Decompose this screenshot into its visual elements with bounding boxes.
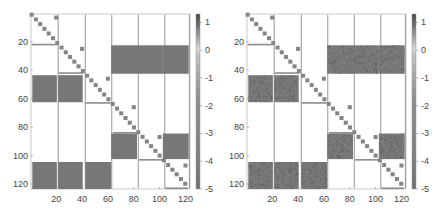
noise-pixel [328,55,330,57]
noise-pixel [252,173,254,175]
noise-pixel [303,178,305,180]
noise-pixel [393,67,395,69]
noise-pixel [268,187,270,189]
noise-pixel [391,145,393,147]
noise-pixel [403,141,405,143]
noise-pixel [282,173,284,175]
block [111,45,137,73]
noise-pixel [312,180,314,182]
noise-pixel [346,57,348,59]
noise-pixel [259,166,261,168]
colorbar-tick-label: 1 [205,17,210,27]
noise-pixel [338,148,340,150]
noise-pixel [344,65,346,67]
noise-pixel [346,148,348,150]
noise-pixel [343,57,345,59]
noise-pixel [348,50,350,52]
noise-pixel [281,92,283,94]
noise-pixel [266,89,268,91]
noise-pixel [344,56,346,58]
noise-pixel [354,52,356,54]
noise-pixel [287,88,289,90]
y-tick-label: 40 [234,65,244,75]
noise-pixel [324,182,326,184]
noise-pixel [277,176,279,178]
noise-pixel [364,67,366,69]
noise-pixel [328,66,330,68]
noise-pixel [326,182,328,184]
noise-pixel [358,62,360,64]
noise-pixel [255,76,257,78]
noise-pixel [255,184,257,186]
diagonal-cell [352,130,356,134]
noise-pixel [257,180,259,182]
noise-pixel [267,82,269,84]
noise-pixel [329,146,331,148]
noise-pixel [319,173,321,175]
noise-pixel [400,57,402,59]
noise-pixel [302,177,304,179]
noise-pixel [336,135,338,137]
noise-pixel [302,166,304,168]
noise-pixel [258,169,260,171]
colorbar: 10-1-2-3-4-5 [412,14,429,194]
noise-pixel [384,48,386,50]
noise-pixel [368,45,370,47]
noise-pixel [393,59,395,61]
noise-pixel [361,62,363,64]
noise-pixel [385,54,387,56]
noise-pixel [399,63,401,65]
noise-pixel [309,166,311,168]
noise-pixel [296,90,298,92]
noise-pixel [341,149,343,151]
noise-pixel [294,177,296,179]
noise-pixel [292,75,294,77]
noise-pixel [320,186,322,188]
noise-pixel [328,154,330,156]
noise-pixel [266,170,268,172]
noise-pixel [251,186,253,188]
noise-pixel [331,56,333,58]
diagonal-cell [263,31,267,35]
plot-area: 2040608010012020406080100120 [13,13,193,204]
noise-pixel [391,46,393,48]
noise-pixel [391,61,393,63]
noise-pixel [366,62,368,64]
noise-pixel [334,140,336,142]
noise-pixel [351,142,353,144]
noise-pixel [344,135,346,137]
noise-pixel [390,136,392,138]
noise-pixel [392,151,394,153]
noise-pixel [372,50,374,52]
noise-pixel [348,134,350,136]
diagonal-cell [106,97,110,101]
x-tick-label: 100 [152,194,167,204]
noise-pixel [369,65,371,67]
noise-pixel [337,134,339,136]
x-tick-label: 80 [129,194,139,204]
noise-pixel [289,178,291,180]
diagonal-cell [68,55,72,59]
noise-pixel [259,182,261,184]
noise-pixel [341,152,343,154]
noise-pixel [329,62,331,64]
noise-pixel [259,79,261,81]
noise-pixel [282,84,284,86]
noise-pixel [334,149,336,151]
noise-pixel [374,67,376,69]
noise-pixel [397,51,399,53]
noise-pixel [395,51,397,53]
noise-pixel [252,175,254,177]
block [32,162,57,189]
noise-pixel [260,77,262,79]
diagonal-cell [310,83,314,87]
noise-pixel [275,172,277,174]
noise-pixel [287,179,289,181]
noise-pixel [253,87,255,89]
diagonal-cell [267,36,271,40]
noise-pixel [403,52,405,54]
noise-pixel [355,50,357,52]
noise-pixel [328,139,330,141]
y-tick-label: 40 [18,65,28,75]
noise-pixel [283,177,285,179]
